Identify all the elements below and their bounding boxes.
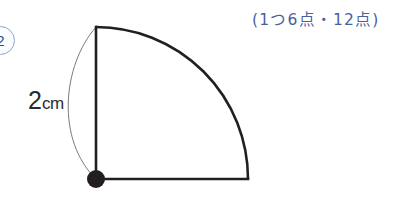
radius-dimension-label: 2cm <box>28 88 64 116</box>
worksheet-figure-page: 2 (1つ6点・12点) 2cm <box>0 0 408 201</box>
center-vertex-dot <box>87 170 105 188</box>
dimension-arc <box>68 27 96 179</box>
sector-arc <box>96 27 248 179</box>
radius-unit: cm <box>42 94 64 113</box>
radius-value: 2 <box>28 86 42 114</box>
